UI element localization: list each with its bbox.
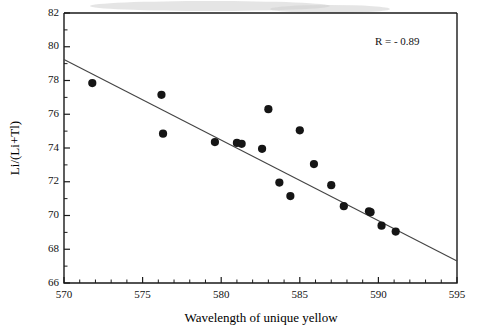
y-tick-label: 72 [48, 174, 59, 186]
data-point [159, 130, 167, 138]
x-axis-title: Wavelength of unique yellow [184, 310, 338, 325]
y-tick-label: 74 [48, 141, 60, 153]
plot-canvas: 570575580585590595 666870727476788082 R … [0, 0, 489, 332]
data-point [366, 208, 374, 216]
y-tick-label: 78 [48, 73, 60, 85]
data-point [327, 181, 335, 189]
x-tick-label: 590 [370, 288, 387, 300]
data-point [264, 105, 272, 113]
data-point [211, 138, 219, 146]
data-point [157, 91, 165, 99]
y-tick-label: 80 [48, 39, 60, 51]
y-tick-label: 66 [48, 276, 60, 288]
y-tick-label: 68 [48, 242, 60, 254]
correlation-annotation: R = - 0.89 [375, 35, 420, 47]
data-point [286, 192, 294, 200]
y-tick-label: 76 [48, 107, 60, 119]
chart-annotations: R = - 0.89 [375, 35, 420, 47]
data-point [238, 140, 246, 148]
data-point [392, 227, 400, 235]
data-point [275, 178, 283, 186]
y-axis-title: Li/(Li+Tl) [7, 121, 22, 175]
data-point [377, 222, 385, 230]
scatter-plot-figure: 570575580585590595 666870727476788082 R … [0, 0, 489, 332]
x-tick-label: 585 [292, 288, 309, 300]
scan-artifact-2 [270, 5, 390, 13]
y-tick-label: 70 [48, 208, 60, 220]
figure-background [0, 0, 489, 332]
y-tick-label: 82 [48, 6, 59, 18]
x-tick-label: 575 [134, 288, 151, 300]
data-point [88, 79, 96, 87]
data-point [340, 202, 348, 210]
x-tick-label: 570 [56, 288, 73, 300]
data-point [258, 145, 266, 153]
data-point [296, 126, 304, 134]
x-tick-label: 580 [213, 288, 230, 300]
data-point [310, 160, 318, 168]
x-tick-label: 595 [449, 288, 466, 300]
